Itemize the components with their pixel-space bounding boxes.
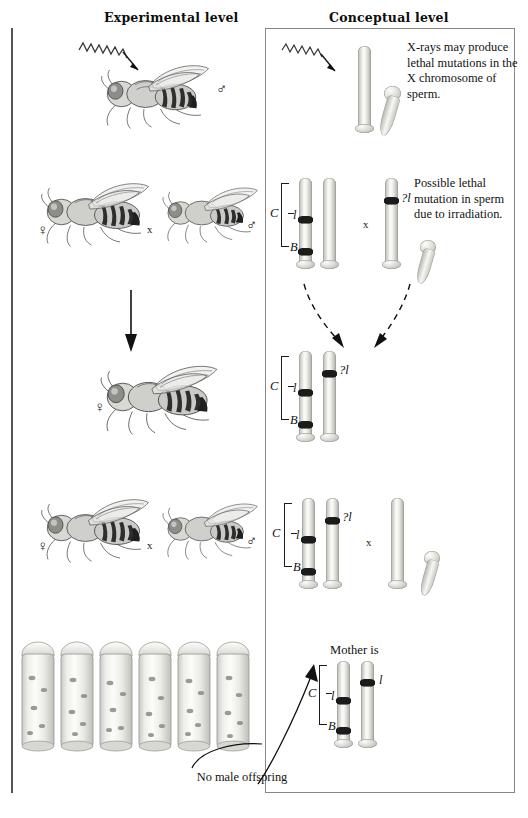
cross-symbol-conceptual-p2: x xyxy=(363,218,369,230)
arrow-to-mother-genotype xyxy=(256,658,328,788)
fly-female-p1 xyxy=(36,176,156,248)
fly-female-f1 xyxy=(95,358,225,436)
label-l-p3: l xyxy=(293,381,296,396)
label-C-p5: C xyxy=(308,686,316,701)
fly-male-irradiated xyxy=(96,58,216,130)
chromosome-x-normal-male-p4 xyxy=(391,498,421,602)
sex-symbol-female-f1: ♀ xyxy=(94,400,105,415)
caption-xray-lethal-mutations: X-rays may produce lethal mutations in t… xyxy=(407,40,519,102)
label-C-p3: C xyxy=(270,379,278,394)
label-l-p4: l xyxy=(296,528,299,543)
label-B-p4: B xyxy=(293,560,301,575)
chromosome-pair-mother-result xyxy=(337,661,397,761)
label-B-p2: B xyxy=(290,240,298,255)
label-B-p3: B xyxy=(290,413,298,428)
sex-symbol-male-f1-cross: ♂ xyxy=(246,534,257,549)
chromosome-clb-female-p2 xyxy=(299,178,359,282)
fly-male-f1-cross xyxy=(158,497,264,561)
label-B-p5: B xyxy=(328,719,336,734)
sex-symbol-male-p1: ♂ xyxy=(216,82,227,97)
bracket-C-region-p4 xyxy=(284,503,292,567)
label-l-p2: l xyxy=(293,208,296,223)
fly-male-p1 xyxy=(158,181,264,245)
figure-muller-clb-experiment: Experimental level Conceptual level xyxy=(0,0,528,818)
sex-symbol-male-p1-cross: ♂ xyxy=(246,218,257,233)
label-l-p5: l xyxy=(331,689,334,704)
chromosome-pair-f1-mother xyxy=(302,498,362,602)
label-l-homolog-p5: l xyxy=(379,673,382,688)
bracket-C-region-p3 xyxy=(281,356,289,420)
label-mutant-p3: ?l xyxy=(339,363,349,378)
label-mutant-p2: ?l xyxy=(401,191,411,206)
down-arrow-p3 xyxy=(123,290,143,356)
caption-possible-lethal-mutation: Possible lethal mutation in sperm due to… xyxy=(414,176,522,223)
cross-symbol-f1: x xyxy=(147,539,153,551)
chromosome-y-sperm-p4 xyxy=(420,551,456,603)
label-C-p2: C xyxy=(270,206,278,221)
cross-symbol-conceptual-p4: x xyxy=(366,536,372,548)
header-experimental-level: Experimental level xyxy=(104,10,239,25)
header-conceptual-level: Conceptual level xyxy=(329,10,449,25)
label-mutant-p4: ?l xyxy=(342,510,352,525)
bracket-C-region-p5 xyxy=(319,665,327,725)
bracket-C-region-p2 xyxy=(281,183,289,247)
chromosome-pair-f1-female xyxy=(299,351,359,455)
dashed-inheritance-arrows xyxy=(292,280,422,362)
x-ray-zigzag-arrow-icon-conceptual xyxy=(281,40,347,86)
left-panel-divider xyxy=(11,28,13,793)
heading-mother-is: Mother is xyxy=(330,643,379,659)
fly-female-f1-cross xyxy=(36,492,156,564)
cross-symbol-p1: x xyxy=(147,223,153,235)
label-C-p4: C xyxy=(272,526,280,541)
sex-symbol-female-f1-cross: ♀ xyxy=(37,539,48,554)
sex-symbol-female-p1: ♀ xyxy=(37,223,48,238)
